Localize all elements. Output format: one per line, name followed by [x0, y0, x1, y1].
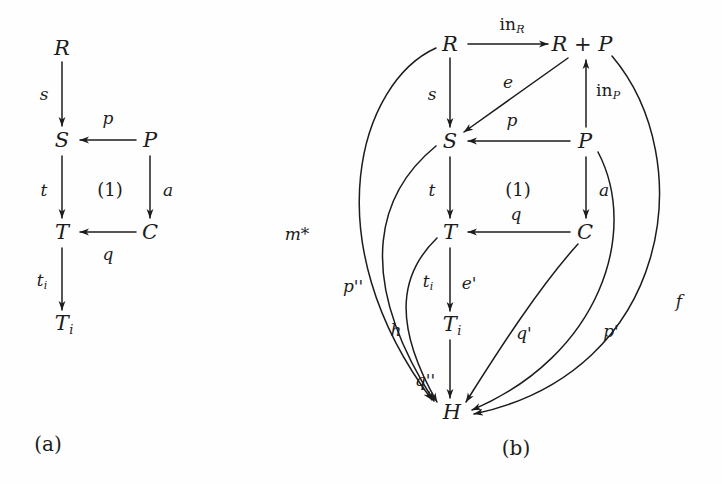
- caption-a: (a): [34, 434, 62, 454]
- node-b-P: P: [578, 131, 592, 152]
- subscript-R: R: [516, 24, 524, 37]
- edge-label-a-s: s: [40, 86, 49, 103]
- node-b-T: T: [443, 222, 457, 243]
- square-marker-b: (1): [505, 181, 531, 199]
- arrow-b-pp: [472, 152, 614, 410]
- node-b-Ti: Ti: [443, 314, 462, 337]
- node-b-R-plus-P: R + P: [552, 34, 613, 55]
- node-a-S: S: [55, 130, 69, 151]
- edge-label-a-ti: ti: [37, 272, 48, 291]
- subscript-i: i: [430, 281, 434, 294]
- edge-label-b-inP: inP: [596, 82, 620, 101]
- edge-label-b-f: f: [676, 293, 682, 310]
- edge-label-a-q: q: [103, 246, 114, 263]
- edge-label-b-t: t: [429, 182, 436, 199]
- subscript-i: i: [457, 322, 461, 337]
- edge-label-b-e-prime: e': [462, 275, 477, 292]
- subscript-i: i: [69, 321, 73, 336]
- edge-label-a-t: t: [41, 182, 48, 199]
- node-b-C: C: [577, 222, 593, 243]
- edge-label-b-m-star: m*: [285, 226, 310, 243]
- node-b-S: S: [443, 131, 457, 152]
- node-a-P: P: [143, 130, 157, 151]
- subscript-P: P: [613, 90, 620, 103]
- node-a-Ti: Ti: [55, 313, 74, 336]
- edge-label-b-inR: inR: [500, 16, 525, 35]
- square-marker-a: (1): [97, 181, 123, 199]
- figure-canvas: R S P T C Ti s p t a q ti (1) R R + P S: [0, 0, 722, 484]
- arrow-b-f: [474, 56, 659, 414]
- edge-label-b-s: s: [428, 86, 437, 103]
- edge-label-b-q-prime: q': [516, 325, 532, 342]
- node-a-R: R: [54, 38, 70, 59]
- edge-label-a-a: a: [163, 182, 173, 199]
- arrow-b-mstar: [359, 48, 436, 400]
- edge-label-b-q-double-prime: q'': [415, 372, 435, 389]
- node-a-T: T: [55, 222, 69, 243]
- node-a-C: C: [142, 222, 158, 243]
- edge-label-b-ti: ti: [423, 273, 434, 292]
- node-b-H: H: [443, 402, 461, 423]
- edge-label-a-p: p: [103, 110, 114, 127]
- edge-label-b-p-prime: p': [603, 323, 619, 340]
- edge-label-b-h: h: [391, 322, 402, 339]
- edge-label-b-p-double-prime: p'': [343, 278, 363, 295]
- edge-label-b-a: a: [599, 182, 609, 199]
- edge-label-b-e: e: [503, 74, 513, 91]
- node-b-R: R: [442, 34, 458, 55]
- diagram-arrows-layer: [0, 0, 722, 484]
- caption-b: (b): [502, 438, 530, 458]
- edge-label-b-q: q: [511, 206, 522, 223]
- subscript-i: i: [44, 280, 48, 293]
- edge-label-b-p: p: [507, 112, 518, 129]
